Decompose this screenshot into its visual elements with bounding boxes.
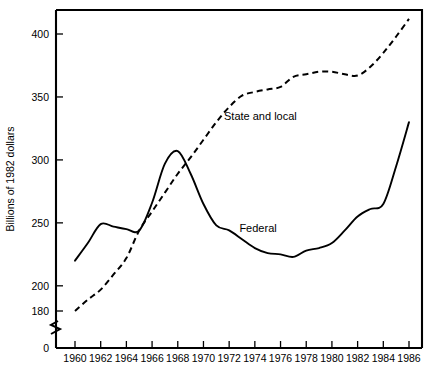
y-tick-label-0: 0 bbox=[43, 342, 49, 354]
chart-figure: 0180200250300350400 19601962196419661968… bbox=[0, 0, 432, 377]
chart-background bbox=[0, 0, 432, 377]
x-tick-label-1986: 1986 bbox=[397, 352, 421, 364]
x-tick-label-1964: 1964 bbox=[115, 352, 139, 364]
y-tick-label-350: 350 bbox=[31, 91, 49, 103]
y-tick-label-400: 400 bbox=[31, 28, 49, 40]
x-tick-label-1980: 1980 bbox=[320, 352, 344, 364]
x-tick-label-1966: 1966 bbox=[140, 352, 164, 364]
x-tick-label-1962: 1962 bbox=[89, 352, 113, 364]
line-chart: 0180200250300350400 19601962196419661968… bbox=[0, 0, 432, 377]
y-tick-label-250: 250 bbox=[31, 217, 49, 229]
x-tick-label-1976: 1976 bbox=[269, 352, 293, 364]
x-tick-label-1974: 1974 bbox=[243, 352, 267, 364]
y-axis-title: Billions of 1982 dollars bbox=[4, 126, 16, 231]
y-tick-label-200: 200 bbox=[31, 280, 49, 292]
x-tick-label-1968: 1968 bbox=[166, 352, 190, 364]
x-tick-label-1982: 1982 bbox=[346, 352, 370, 364]
y-tick-label-300: 300 bbox=[31, 154, 49, 166]
x-tick-label-1960: 1960 bbox=[63, 352, 87, 364]
x-tick-label-1972: 1972 bbox=[217, 352, 241, 364]
x-tick-label-1984: 1984 bbox=[372, 352, 396, 364]
x-tick-label-1970: 1970 bbox=[192, 352, 216, 364]
x-tick-label-1978: 1978 bbox=[295, 352, 319, 364]
series-annotation-state-and-local: State and local bbox=[224, 110, 297, 122]
y-tick-label-180: 180 bbox=[31, 305, 49, 317]
series-annotation-federal: Federal bbox=[239, 222, 276, 234]
